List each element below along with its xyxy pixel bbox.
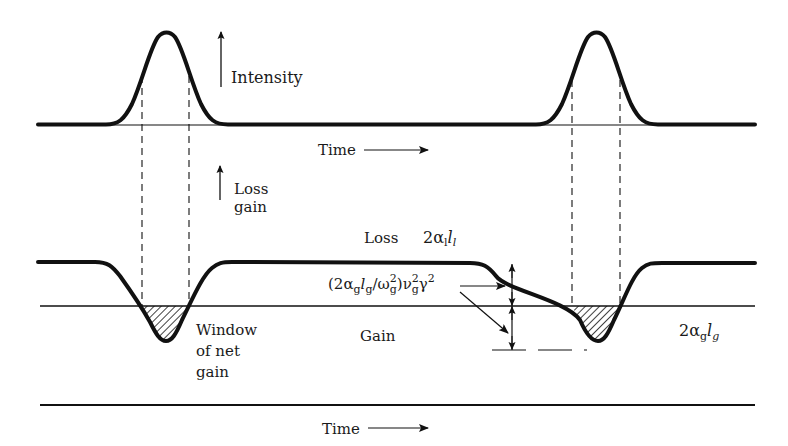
loss-gain-label-line2: gain	[234, 198, 267, 216]
loss-gain-label-line1: Loss	[234, 180, 268, 198]
mode-locking-gain-loss-diagram: Intensity Time Loss gain Loss 2αlll (2αg…	[0, 0, 788, 446]
window-label-line1: Window	[196, 321, 257, 339]
gain-saturation-formula: (2αglg/ω2g)ν2gγ2	[328, 272, 435, 296]
window-label-line2: of net	[196, 342, 240, 360]
loss-label: Loss	[364, 229, 398, 247]
formula-pointer-arrow-diagonal-icon	[460, 292, 508, 333]
loss-coefficient: 2αlll	[423, 228, 457, 249]
time-label-bottom: Time	[322, 420, 360, 438]
gain-coefficient: 2αglg	[679, 321, 719, 343]
intensity-trace	[38, 33, 755, 126]
window-label-line3: gain	[196, 363, 229, 381]
gain-label: Gain	[360, 327, 396, 345]
time-label-top: Time	[318, 141, 356, 159]
pulse-sync-dashed-lines	[142, 76, 620, 306]
intensity-pulse-curve	[38, 33, 755, 125]
intensity-label: Intensity	[231, 68, 303, 87]
